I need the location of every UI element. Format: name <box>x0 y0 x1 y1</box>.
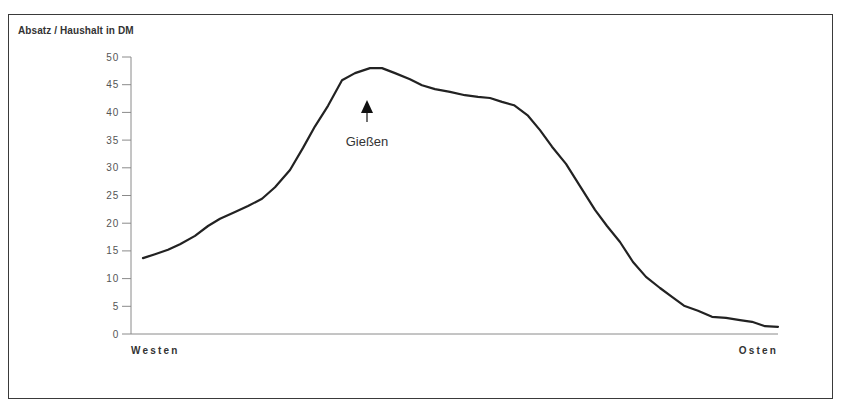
y-tick-label: 25 <box>106 190 119 201</box>
y-tick-label: 15 <box>106 245 119 256</box>
x-axis-end-label: Osten <box>739 345 778 356</box>
y-tick-label: 10 <box>106 273 119 284</box>
up-arrow-icon <box>361 100 373 122</box>
series-line <box>143 68 778 327</box>
y-tick-label: 0 <box>113 329 119 340</box>
annotation-label: Gießen <box>346 134 389 149</box>
line-chart: 05101520253035404550 Westen Osten Gießen <box>0 0 842 414</box>
x-axis-start-label: Westen <box>131 345 180 356</box>
y-tick-label: 35 <box>106 135 119 146</box>
y-tick-label: 30 <box>106 162 119 173</box>
y-tick-label: 20 <box>106 218 119 229</box>
y-tick-label: 5 <box>113 301 119 312</box>
y-tick-label: 40 <box>106 107 119 118</box>
y-tick-label: 50 <box>106 52 119 63</box>
y-tick-label: 45 <box>106 79 119 90</box>
y-axis: 05101520253035404550 <box>106 52 131 340</box>
